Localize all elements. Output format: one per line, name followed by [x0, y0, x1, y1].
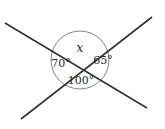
angle-diagram: x 70° 65° 100°	[0, 0, 165, 129]
line-2	[21, 17, 152, 119]
angle-label-x: x	[77, 41, 84, 55]
line-1	[5, 23, 147, 108]
angle-label-100: 100°	[68, 74, 95, 87]
angle-label-70: 70°	[51, 57, 71, 70]
angle-label-65: 65°	[93, 54, 113, 67]
